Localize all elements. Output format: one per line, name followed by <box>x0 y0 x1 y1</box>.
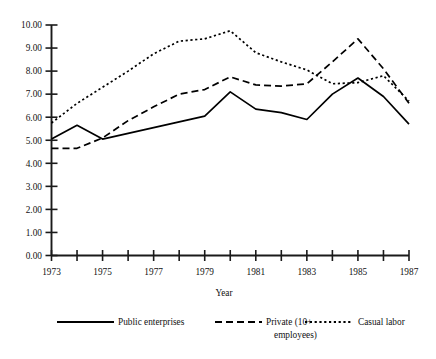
y-tick-label: 0.00 <box>26 251 43 261</box>
y-tick-label: 7.00 <box>26 89 43 99</box>
x-tick-label: 1985 <box>349 267 368 277</box>
y-tick-label: 4.00 <box>26 159 43 169</box>
x-tick-label: 1973 <box>42 267 61 277</box>
y-tick-label: 5.00 <box>26 136 43 146</box>
chart-canvas: 0.001.002.003.004.005.006.007.008.009.00… <box>0 0 436 359</box>
y-tick-label: 10.00 <box>21 20 42 30</box>
chart-legend: Public enterprisesPrivate (10+employees)… <box>57 317 406 341</box>
x-tick-label: 1977 <box>144 267 163 277</box>
y-tick-label: 9.00 <box>26 43 43 53</box>
y-tick-label: 2.00 <box>26 205 43 215</box>
x-axis-tick-labels: 19731975197719791981198319851987 <box>42 267 418 277</box>
y-axis-tick-labels: 0.001.002.003.004.005.006.007.008.009.00… <box>21 20 42 260</box>
series-line-private-10-employees <box>52 39 410 148</box>
x-axis-title: Year <box>215 288 233 298</box>
line-chart: 0.001.002.003.004.005.006.007.008.009.00… <box>0 0 436 359</box>
legend-label-private-10-line2: employees) <box>274 330 317 341</box>
x-tick-label: 1975 <box>93 267 112 277</box>
series-line-casual-labor <box>52 31 410 123</box>
x-tick-label: 1979 <box>195 267 214 277</box>
y-tick-label: 8.00 <box>26 66 43 76</box>
legend-label-casual-labor: Casual labor <box>358 317 406 327</box>
x-tick-label: 1983 <box>298 267 317 277</box>
series-line-public-enterprises <box>52 78 410 139</box>
y-tick-label: 3.00 <box>26 182 43 192</box>
y-tick-label: 6.00 <box>26 113 43 123</box>
series-group <box>52 31 410 149</box>
legend-label-public-enterprises: Public enterprises <box>118 317 185 327</box>
x-tick-label: 1987 <box>400 267 419 277</box>
y-tick-label: 1.00 <box>26 228 43 238</box>
x-tick-label: 1981 <box>246 267 265 277</box>
